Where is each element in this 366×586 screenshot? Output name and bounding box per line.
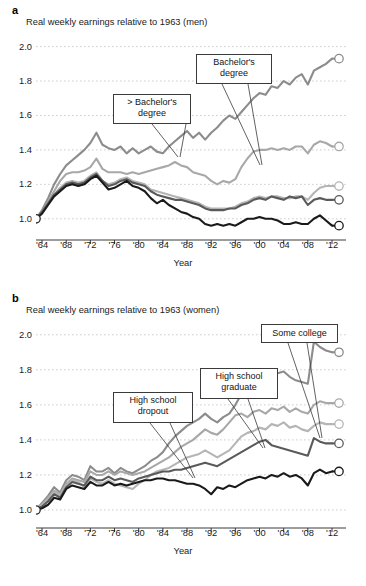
y-tick-label: 1.4 (6, 145, 32, 155)
y-tick-label: 2.0 (6, 330, 32, 340)
x-tick-label: '96 (229, 240, 241, 250)
x-tick-label: '64 (36, 528, 48, 538)
figure-caption (4, 578, 366, 586)
callout-bachelors-degree: Bachelor's degree (196, 54, 272, 84)
figure-earnings-by-education: a Real weekly earnings relative to 1963 … (0, 0, 366, 586)
callout-line-1: High school (205, 371, 273, 382)
end-marker (335, 399, 343, 407)
y-tick-label: 1.4 (6, 435, 32, 445)
x-tick-label: '96 (229, 528, 241, 538)
end-marker (335, 221, 343, 229)
y-tick-label: 1.8 (6, 76, 32, 86)
start-marker (36, 506, 40, 514)
series-line (36, 59, 332, 219)
end-marker (335, 142, 343, 150)
x-tick-label: '72 (84, 528, 96, 538)
end-marker (335, 348, 343, 356)
x-tick-label: '08 (302, 528, 314, 538)
x-tick-label: '88 (181, 240, 193, 250)
x-tick-label: '12 (326, 240, 338, 250)
panel-a-plot-area (36, 38, 346, 236)
x-tick-label: '80 (133, 528, 145, 538)
panel-b-letter: b (12, 292, 19, 304)
x-tick-label: '88 (181, 528, 193, 538)
callout-greater-than-bachelors-degree: > Bachelor's degree (113, 94, 191, 124)
panel-a-x-axis-title: Year (0, 258, 366, 268)
x-tick-label: '72 (84, 240, 96, 250)
x-tick-label: '00 (253, 528, 265, 538)
callout-line-1: Bachelor's (201, 57, 267, 68)
callout-line-1: Some college (266, 328, 333, 339)
callout-high-school-dropout: High school dropout (113, 392, 193, 423)
callout-line-2: dropout (118, 406, 188, 417)
panel-a-title: Real weekly earnings relative to 1963 (m… (26, 17, 207, 27)
x-tick-label: '76 (108, 240, 120, 250)
panel-b-lines (36, 326, 346, 536)
end-marker (335, 439, 343, 447)
x-tick-label: '04 (278, 528, 290, 538)
end-marker (335, 182, 343, 190)
panel-b-title: Real weekly earnings relative to 1963 (w… (26, 305, 219, 315)
panel-a-lines (36, 38, 346, 248)
x-tick-label: '92 (205, 528, 217, 538)
x-tick-label: '04 (278, 240, 290, 250)
callout-line-2: graduate (205, 382, 273, 393)
x-tick-label: '68 (60, 240, 72, 250)
end-marker (335, 54, 343, 62)
x-tick-label: '76 (108, 528, 120, 538)
y-tick-label: 2.0 (6, 42, 32, 52)
panel-b-x-axis: '64'68'72'76'80'84'88'92'96'00'04'08'12 (36, 528, 346, 544)
start-marker (36, 215, 40, 223)
y-tick-label: 1.8 (6, 365, 32, 375)
panel-a: a Real weekly earnings relative to 1963 … (0, 0, 366, 290)
end-marker (335, 467, 343, 475)
series-line (36, 422, 332, 510)
series-line (36, 438, 332, 510)
y-tick-label: 1.0 (6, 505, 32, 515)
callout-some-college: Some college (261, 324, 338, 343)
y-tick-label: 1.2 (6, 179, 32, 189)
panel-a-x-axis: '64'68'72'76'80'84'88'92'96'00'04'08'12 (36, 240, 346, 256)
x-tick-label: '84 (157, 528, 169, 538)
panel-b-y-axis: 1.01.21.41.61.82.0 (4, 326, 32, 524)
x-tick-label: '08 (302, 240, 314, 250)
callout-line-1: High school (118, 395, 188, 406)
x-tick-label: '12 (326, 528, 338, 538)
callout-line-2: degree (118, 108, 186, 119)
x-tick-label: '80 (133, 240, 145, 250)
end-marker (335, 196, 343, 204)
y-tick-label: 1.6 (6, 400, 32, 410)
panel-b: b Real weekly earnings relative to 1963 … (0, 288, 366, 586)
series-line (36, 470, 332, 510)
panel-a-letter: a (12, 4, 18, 16)
y-tick-label: 1.2 (6, 470, 32, 480)
x-tick-label: '92 (205, 240, 217, 250)
x-tick-label: '84 (157, 240, 169, 250)
panel-a-y-axis: 1.01.21.41.61.82.0 (4, 38, 32, 236)
x-tick-label: '68 (60, 528, 72, 538)
y-tick-label: 1.6 (6, 110, 32, 120)
y-tick-label: 1.0 (6, 214, 32, 224)
x-tick-label: '64 (36, 240, 48, 250)
panel-b-x-axis-title: Year (0, 546, 366, 556)
callout-line-2: degree (201, 68, 267, 79)
callout-high-school-graduate: High school graduate (200, 368, 278, 399)
end-marker (335, 420, 343, 428)
x-tick-label: '00 (253, 240, 265, 250)
panel-b-plot-area (36, 326, 346, 524)
callout-line-1: > Bachelor's (118, 97, 186, 108)
